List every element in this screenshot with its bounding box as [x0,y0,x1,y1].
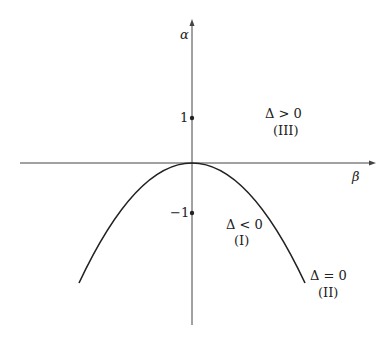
region-II-tag: (II) [318,286,338,300]
y-axis-label: α [180,28,189,42]
tick-label-1: 1 [180,111,188,125]
tick-dot-1 [190,116,194,120]
tick-dot-minus-1 [190,211,194,215]
region-III-condition: Δ > 0 [265,107,302,121]
x-axis-label: β [352,170,360,184]
x-axis-arrow-icon [369,161,376,166]
tick-label-minus-1: −1 [170,206,189,220]
region-II-condition: Δ = 0 [310,269,347,283]
region-I-tag: (I) [234,234,249,248]
region-III-tag: (III) [273,124,299,138]
region-I-condition: Δ < 0 [226,218,263,232]
y-axis-arrow-icon [190,19,195,26]
